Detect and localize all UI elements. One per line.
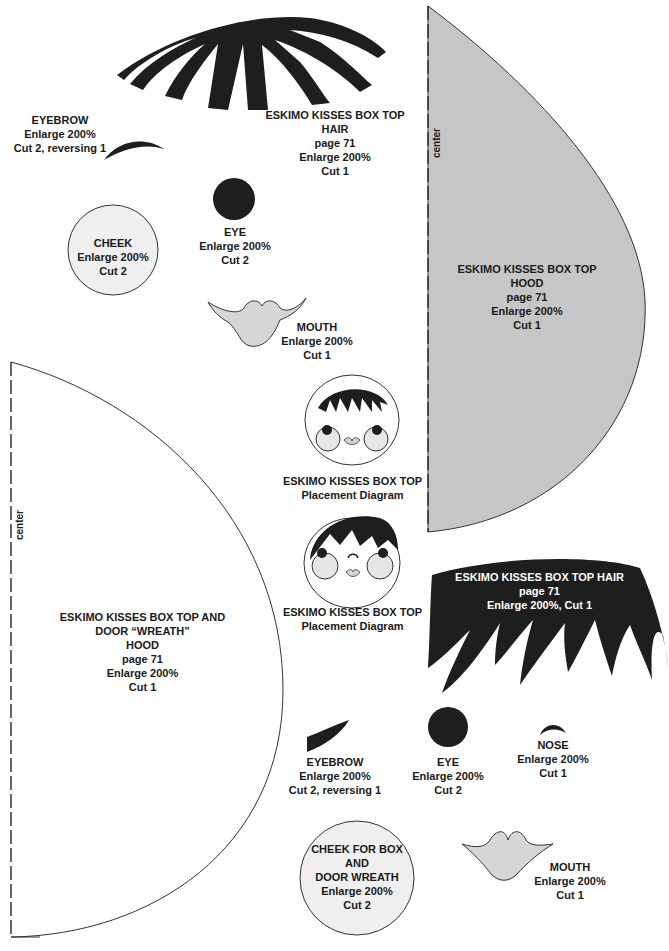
gray-hood-center-label: center <box>431 128 442 158</box>
bottom-hair-label: ESKIMO KISSES BOX TOP HAIR page 71 Enlar… <box>452 570 627 612</box>
top-hair-label: ESKIMO KISSES BOX TOP HAIR page 71 Enlar… <box>260 108 410 178</box>
bottom-eye-shape <box>428 707 468 747</box>
diagram-2-label: ESKIMO KISSES BOX TOP Placement Diagram <box>280 605 425 633</box>
bottom-eye-label: EYE Enlarge 200% Cut 2 <box>403 755 493 797</box>
top-eye-shape <box>213 178 255 220</box>
bottom-mouth-label: MOUTH Enlarge 200% Cut 1 <box>525 860 615 902</box>
white-hood-label: ESKIMO KISSES BOX TOP AND DOOR “WREATH” … <box>55 610 230 694</box>
white-hood-center-label: center <box>14 510 25 540</box>
bottom-eyebrow-label: EYEBROW Enlarge 200% Cut 2, reversing 1 <box>285 755 385 797</box>
top-mouth-label: MOUTH Enlarge 200% Cut 1 <box>272 320 362 362</box>
top-hair-shape <box>117 17 386 110</box>
bottom-eyebrow-shape <box>307 720 349 752</box>
top-eye-label: EYE Enlarge 200% Cut 2 <box>190 225 280 267</box>
top-eyebrow-shape <box>104 141 164 160</box>
gray-hood-label: ESKIMO KISSES BOX TOP HOOD page 71 Enlar… <box>452 262 602 332</box>
bottom-nose-shape <box>540 725 566 735</box>
diagram-1-label: ESKIMO KISSES BOX TOP Placement Diagram <box>280 474 425 502</box>
placement-diagram-1 <box>305 375 399 465</box>
placement-diagram-2 <box>304 516 400 608</box>
top-eyebrow-label: EYEBROW Enlarge 200% Cut 2, reversing 1 <box>12 113 108 155</box>
top-cheek-label: CHEEK Enlarge 200% Cut 2 <box>68 236 158 278</box>
bottom-nose-label: NOSE Enlarge 200% Cut 1 <box>508 738 598 780</box>
bottom-cheek-label: CHEEK FOR BOX AND DOOR WREATH Enlarge 20… <box>302 842 412 912</box>
